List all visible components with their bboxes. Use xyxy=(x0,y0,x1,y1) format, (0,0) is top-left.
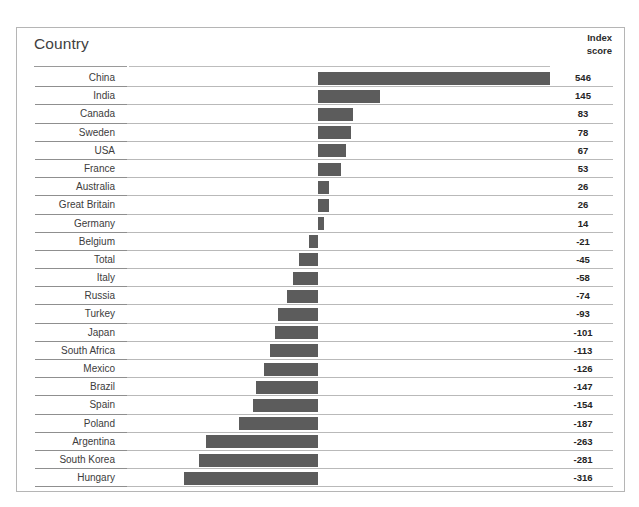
score-value: -58 xyxy=(553,269,613,287)
chart-row: Mexico-126 xyxy=(17,360,624,378)
score-value: 14 xyxy=(553,215,613,233)
country-label: Argentina xyxy=(17,433,121,451)
bar xyxy=(318,72,550,85)
bar xyxy=(293,272,318,285)
country-label: Mexico xyxy=(17,360,121,378)
bar xyxy=(318,163,341,176)
bar xyxy=(318,126,351,139)
score-value: -281 xyxy=(553,451,613,469)
country-label: Great Britain xyxy=(17,196,121,214)
bar xyxy=(318,199,329,212)
chart-row: Australia26 xyxy=(17,178,624,196)
country-label: India xyxy=(17,87,121,105)
bar-track xyxy=(127,469,550,487)
column-header-index-line1: Index xyxy=(548,32,612,45)
bar xyxy=(239,417,318,430)
score-value: -101 xyxy=(553,324,613,342)
country-label: Canada xyxy=(17,105,121,123)
bar-track xyxy=(127,360,550,378)
score-value: 26 xyxy=(553,196,613,214)
chart-row: Great Britain26 xyxy=(17,196,624,214)
chart-row: Canada83 xyxy=(17,105,624,123)
chart-row: Turkey-93 xyxy=(17,305,624,323)
bar xyxy=(287,290,318,303)
chart-row: Belgium-21 xyxy=(17,233,624,251)
score-value: 26 xyxy=(553,178,613,196)
country-label: Russia xyxy=(17,287,121,305)
score-value: -21 xyxy=(553,233,613,251)
chart-row: Brazil-147 xyxy=(17,378,624,396)
country-label: Turkey xyxy=(17,305,121,323)
bar xyxy=(318,181,329,194)
bar-track xyxy=(127,178,550,196)
bar-track xyxy=(127,415,550,433)
bar xyxy=(256,381,318,394)
bar-track xyxy=(127,87,550,105)
bar-track xyxy=(127,160,550,178)
bar-track xyxy=(127,233,550,251)
score-value: -154 xyxy=(553,396,613,414)
bar-track xyxy=(127,215,550,233)
chart-row: Hungary-316 xyxy=(17,469,624,487)
country-label: Sweden xyxy=(17,124,121,142)
row-divider-label-side xyxy=(35,486,127,487)
score-value: -93 xyxy=(553,305,613,323)
country-label: Spain xyxy=(17,396,121,414)
score-value: 546 xyxy=(553,69,613,87)
bar-track xyxy=(127,196,550,214)
bar xyxy=(206,435,318,448)
bar-track xyxy=(127,69,550,87)
country-label: Hungary xyxy=(17,469,121,487)
score-value: 145 xyxy=(553,87,613,105)
chart-row: Sweden78 xyxy=(17,124,624,142)
bar-track xyxy=(127,251,550,269)
bar xyxy=(318,108,353,121)
chart-row: South Africa-113 xyxy=(17,342,624,360)
chart-row: Germany14 xyxy=(17,215,624,233)
chart-frame: Country Index score China546India145Cana… xyxy=(16,27,625,492)
score-value: -113 xyxy=(553,342,613,360)
chart-row: Spain-154 xyxy=(17,396,624,414)
country-label: Poland xyxy=(17,415,121,433)
chart-row: India145 xyxy=(17,87,624,105)
chart-row: France53 xyxy=(17,160,624,178)
bar xyxy=(318,144,346,157)
chart-row: China546 xyxy=(17,69,624,87)
chart-row: Russia-74 xyxy=(17,287,624,305)
chart-row: South Korea-281 xyxy=(17,451,624,469)
chart-row: Poland-187 xyxy=(17,415,624,433)
bar-track xyxy=(127,269,550,287)
bar-track xyxy=(127,105,550,123)
country-label: Brazil xyxy=(17,378,121,396)
bar xyxy=(270,344,318,357)
bar-track xyxy=(127,342,550,360)
bar-track xyxy=(127,305,550,323)
bar xyxy=(264,363,318,376)
country-label: South Africa xyxy=(17,342,121,360)
country-label: France xyxy=(17,160,121,178)
country-label: Belgium xyxy=(17,233,121,251)
score-value: -74 xyxy=(553,287,613,305)
bar xyxy=(253,399,318,412)
score-value: 78 xyxy=(553,124,613,142)
country-label: South Korea xyxy=(17,451,121,469)
chart-header: Country Index score xyxy=(17,28,624,69)
bar-track xyxy=(127,378,550,396)
bar xyxy=(199,454,318,467)
bar-track xyxy=(127,324,550,342)
column-header-index-score: Index score xyxy=(548,32,612,57)
country-label: Total xyxy=(17,251,121,269)
country-label: USA xyxy=(17,142,121,160)
score-value: -147 xyxy=(553,378,613,396)
bar xyxy=(278,308,318,321)
bar xyxy=(275,326,318,339)
score-value: -187 xyxy=(553,415,613,433)
bar-track xyxy=(127,451,550,469)
country-label: Australia xyxy=(17,178,121,196)
bar xyxy=(318,217,324,230)
bar-track xyxy=(127,142,550,160)
header-rule-right xyxy=(129,66,550,67)
chart-row: Total-45 xyxy=(17,251,624,269)
chart-row: Japan-101 xyxy=(17,324,624,342)
score-value: -126 xyxy=(553,360,613,378)
